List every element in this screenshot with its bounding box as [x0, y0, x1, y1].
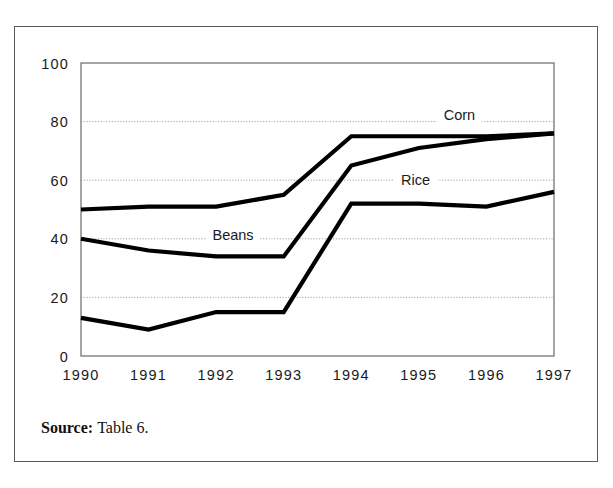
chart-plot-container: 020406080100 199019911992199319941995199… — [15, 27, 599, 463]
x-tick-label-1997: 1997 — [535, 367, 572, 383]
source-label: Source: — [41, 419, 93, 436]
x-tick-label-1995: 1995 — [400, 367, 437, 383]
series-label-rice: Rice — [401, 172, 430, 188]
y-tick-label-40: 40 — [50, 231, 69, 247]
x-tick-label-1996: 1996 — [468, 367, 505, 383]
series-label-corn: Corn — [444, 107, 475, 123]
y-tick-label-60: 60 — [50, 173, 69, 189]
x-tick-label-1992: 1992 — [198, 367, 235, 383]
line-chart: 020406080100 199019911992199319941995199… — [15, 27, 599, 463]
series-label-beans: Beans — [212, 227, 253, 243]
figure-frame: 020406080100 199019911992199319941995199… — [14, 26, 598, 462]
source-value: Table 6. — [97, 419, 148, 436]
y-tick-label-100: 100 — [41, 56, 69, 72]
series-line-corn — [81, 133, 554, 209]
x-axis-tick-labels: 19901991199219931994199519961997 — [62, 367, 572, 383]
y-tick-label-0: 0 — [60, 349, 69, 365]
data-series-lines — [81, 133, 554, 329]
x-tick-label-1991: 1991 — [130, 367, 167, 383]
x-tick-label-1993: 1993 — [265, 367, 302, 383]
x-tick-label-1990: 1990 — [62, 367, 99, 383]
x-tick-label-1994: 1994 — [333, 367, 370, 383]
y-axis-tick-labels: 020406080100 — [41, 56, 69, 365]
source-note: Source: Table 6. — [41, 419, 148, 437]
series-line-beans — [81, 133, 554, 256]
y-tick-label-80: 80 — [50, 114, 69, 130]
y-tick-label-20: 20 — [50, 290, 69, 306]
